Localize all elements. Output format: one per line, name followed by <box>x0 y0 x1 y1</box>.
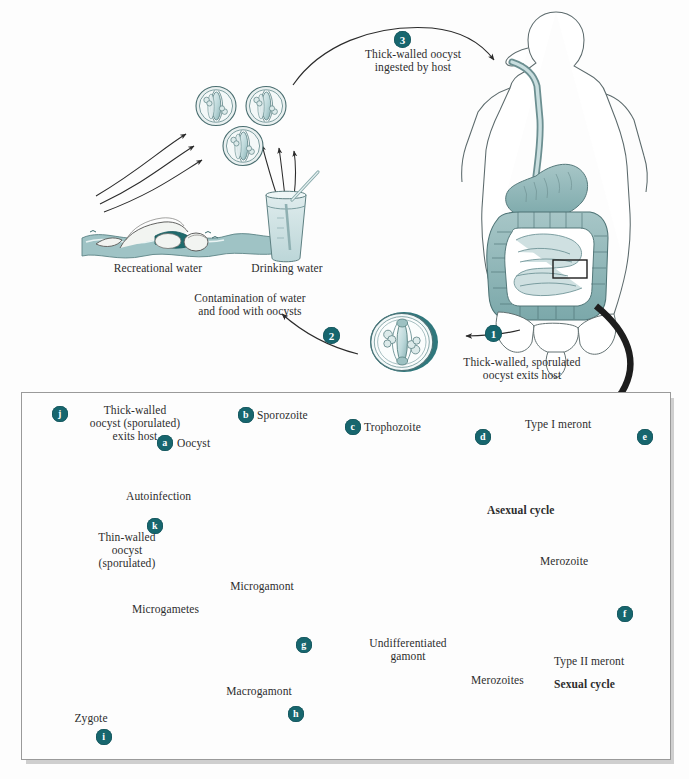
asexual-cycle-label: Asexual cycle <box>487 504 554 517</box>
stage-badge-e[interactable]: e <box>637 429 653 445</box>
undifferentiated-gamont-label: Undifferentiated gamont <box>369 637 446 663</box>
detail-panel <box>21 392 671 760</box>
sexual-cycle-label: Sexual cycle <box>554 678 615 691</box>
stage-h-label: Macrogamont <box>226 685 292 698</box>
stage-badge-i[interactable]: i <box>96 729 112 745</box>
stage-b-label: Sporozoite <box>257 409 308 422</box>
stage-badge-b[interactable]: b <box>238 407 254 423</box>
stage-k-label: Thin-walled oocyst (sporulated) <box>98 531 155 570</box>
oocyst-exits-host-label: Thick-walled, sporulated oocyst exits ho… <box>463 356 580 382</box>
stage-badge-a[interactable]: a <box>157 435 173 451</box>
arrows-glass-to-oocysts <box>262 145 296 197</box>
stage-g-label: Microgamont <box>230 580 294 593</box>
stage-f-label: Type II meront <box>554 655 624 668</box>
merozoites-label: Merozoites <box>471 674 524 687</box>
merozoite-label: Merozoite <box>540 555 588 568</box>
step-badge-2[interactable]: 2 <box>323 327 340 344</box>
stage-i-label: Zygote <box>74 712 107 725</box>
sporulated-oocyst-large <box>370 312 438 372</box>
stage-c-label: Trophozoite <box>364 421 421 434</box>
stage-badge-j[interactable]: j <box>52 406 68 422</box>
recreational-water-illustration <box>82 218 284 258</box>
autoinfection-label: Autoinfection <box>126 490 191 503</box>
stage-badge-g[interactable]: g <box>296 637 312 653</box>
microgametes-label: Microgametes <box>132 603 199 616</box>
stage-badge-c[interactable]: c <box>345 419 361 435</box>
figure-canvas: Thick-walled oocyst ingested by host 3 R… <box>0 0 689 779</box>
arrow-step2 <box>282 314 358 354</box>
step-badge-3[interactable]: 3 <box>394 31 411 48</box>
arrows-water-to-oocysts <box>96 134 202 212</box>
stage-badge-f[interactable]: f <box>617 606 633 622</box>
contamination-label: Contamination of water and food with ooc… <box>194 292 305 318</box>
stage-a-label: Oocyst <box>177 437 210 450</box>
stage-badge-d[interactable]: d <box>475 429 491 445</box>
drinking-water-label: Drinking water <box>251 262 322 275</box>
stage-d-label: Type I meront <box>525 418 591 431</box>
step-badge-1[interactable]: 1 <box>485 325 502 342</box>
stage-badge-h[interactable]: h <box>288 706 304 722</box>
stage-badge-k[interactable]: k <box>147 518 163 534</box>
recreational-water-label: Recreational water <box>114 262 202 275</box>
oocyst-cluster <box>196 87 286 166</box>
step3-label: Thick-walled oocyst ingested by host <box>365 48 461 74</box>
